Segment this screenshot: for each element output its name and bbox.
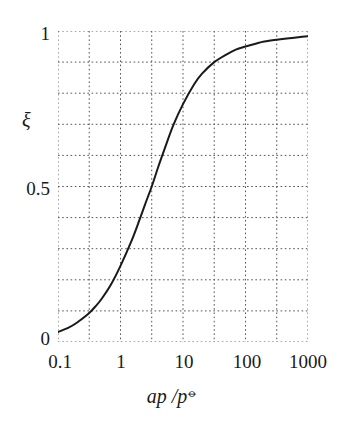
plot-area (58, 31, 308, 342)
x-tick-label-1000: 1000 (289, 352, 327, 371)
standard-state-symbol-icon: ⦵ (187, 386, 198, 399)
x-axis-title: ap /p⦵ (0, 386, 345, 406)
y-tick-label-0: 0 (41, 329, 51, 348)
x-tick-label-10: 10 (175, 352, 194, 371)
data-curve (58, 31, 308, 342)
chart-figure: 1 0.5 0 ξ 0.1 1 10 100 1000 ap /p⦵ (0, 0, 345, 427)
series-line-extent-of-reaction (58, 36, 308, 332)
y-tick-label-0-5: 0.5 (26, 179, 50, 198)
x-tick-label-1: 1 (116, 352, 126, 371)
x-tick-label-0-1: 0.1 (48, 352, 72, 371)
x-axis-title-main: ap /p (147, 385, 188, 407)
y-tick-label-1: 1 (41, 24, 51, 43)
x-tick-label-100: 100 (233, 352, 262, 371)
y-axis-title: ξ (22, 110, 31, 130)
x-axis-tick-labels: 0.1 1 10 100 1000 (0, 352, 345, 378)
